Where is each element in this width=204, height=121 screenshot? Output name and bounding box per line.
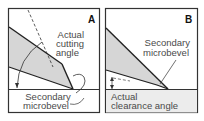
panel-a-cutting-label-3: angle	[56, 47, 79, 58]
panel-b-bevel-label-2: microbevel	[143, 47, 189, 58]
panel-a-bevel-label-2: microbevel	[23, 100, 69, 111]
panel-a: A Actual cutting angle Secondary microbe…	[9, 9, 100, 113]
panel-b-clearance-label-2: clearance angle	[111, 100, 178, 111]
microbevel-diagram: A Actual cutting angle Secondary microbe…	[0, 0, 204, 121]
panel-b-letter: B	[185, 14, 192, 25]
panel-a-letter: A	[88, 14, 95, 25]
panel-b: B Secondary microbevel Actual clearance …	[106, 9, 198, 113]
